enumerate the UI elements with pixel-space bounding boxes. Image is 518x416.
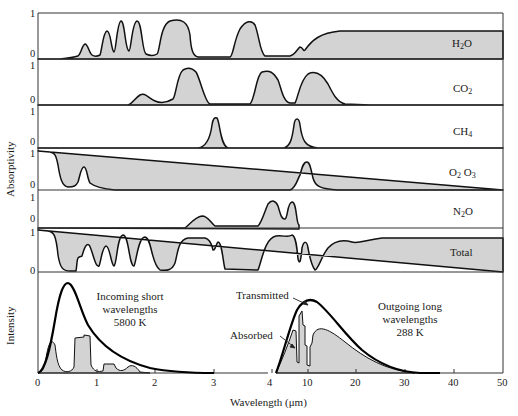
ytick-0: 0 [30,266,35,276]
xtick-0: 0 [35,378,40,388]
co2-absorption-area [38,68,503,105]
gas-label-ch4: CH4 [453,125,472,137]
xtick-40: 40 [448,378,459,388]
gas-label-o2-o3: O2 O3 [449,166,476,178]
ytick-1: 1 [30,107,35,117]
y-axis-title-intensity: Intensity [4,307,16,346]
ytick-1: 1 [30,149,35,159]
xtick-10: 10 [302,378,313,388]
ytick-1: 1 [30,193,35,203]
gas-label-n2o: N2O [453,205,473,217]
x-axis-title: Wavelength (μm) [230,397,307,408]
total-absorption-area [38,230,503,272]
gas-label-total: Total [450,246,472,258]
xtick-2: 2 [152,378,157,388]
xtick-20: 20 [350,378,361,388]
h2o-absorption-area [38,20,503,59]
absorbed-label: Absorbed [230,330,273,341]
xtick-3: 3 [211,378,216,388]
gas-label-h2o: H2O [452,37,472,49]
ytick-0: 0 [30,180,35,190]
ytick-0: 0 [30,137,35,147]
outgoing-annotation: Outgoing long wavelengths 288 K [370,300,450,339]
ytick-1: 1 [30,61,35,71]
ytick-1: 1 [30,228,35,238]
xtick-1: 1 [94,378,99,388]
ytick-0: 0 [30,49,35,59]
n2o-absorption-area [38,201,299,229]
xtick-50: 50 [497,378,508,388]
transmitted-label: Transmitted [236,290,289,301]
incoming-transmitted-area [38,335,150,373]
xtick-30: 30 [399,378,410,388]
ytick-1: 1 [30,9,35,19]
ch4-absorption-area [38,118,503,148]
incoming-annotation: Incoming short wavelengths 5800 K [90,290,170,329]
ytick-0: 0 [30,95,35,105]
absorption-spectra-figure [0,0,518,416]
y-axis-title-absorptivity: Absorptivity [4,141,16,197]
xtick-4: 4 [267,378,272,388]
gas-label-co2: CO2 [453,82,472,94]
o2o3-absorption-area [38,151,503,190]
ytick-0: 0 [30,214,35,224]
